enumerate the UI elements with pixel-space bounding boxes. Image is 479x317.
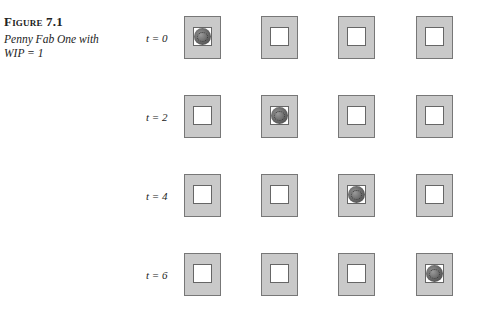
station-1-t0 <box>184 16 221 59</box>
station-slot <box>425 264 444 283</box>
station-slot <box>347 106 366 125</box>
figure-description-line1: Penny Fab One with <box>4 32 134 46</box>
penny-icon <box>426 265 443 282</box>
time-label-t0: t = 0 <box>146 31 180 45</box>
station-4-t2 <box>416 95 453 138</box>
penny-icon <box>271 107 288 124</box>
station-slot <box>425 106 444 125</box>
penny-icon <box>194 28 211 45</box>
figure-description: Penny Fab One with WIP = 1 <box>4 32 134 60</box>
station-slot <box>193 27 212 46</box>
time-label-t4: t = 4 <box>146 189 180 203</box>
station-3-t6 <box>338 253 375 296</box>
station-4-t4 <box>416 174 453 217</box>
station-2-t6 <box>261 253 298 296</box>
station-1-t2 <box>184 95 221 138</box>
station-3-t4 <box>338 174 375 217</box>
station-slot <box>193 264 212 283</box>
station-2-t2 <box>261 95 298 138</box>
station-slot <box>270 27 289 46</box>
station-slot <box>193 106 212 125</box>
station-slot <box>347 185 366 204</box>
figure-description-line2: WIP = 1 <box>4 46 134 60</box>
figure-caption: Figure 7.1 Penny Fab One with WIP = 1 <box>4 14 134 60</box>
station-slot <box>425 27 444 46</box>
station-4-t6 <box>416 253 453 296</box>
station-1-t4 <box>184 174 221 217</box>
figure-label: Figure 7.1 <box>4 14 134 30</box>
time-label-t2: t = 2 <box>146 110 180 124</box>
station-slot <box>347 264 366 283</box>
station-slot <box>270 264 289 283</box>
station-3-t0 <box>338 16 375 59</box>
station-4-t0 <box>416 16 453 59</box>
station-2-t4 <box>261 174 298 217</box>
station-slot <box>270 106 289 125</box>
penny-icon <box>348 186 365 203</box>
station-2-t0 <box>261 16 298 59</box>
station-slot <box>193 185 212 204</box>
time-label-t6: t = 6 <box>146 268 180 282</box>
station-slot <box>425 185 444 204</box>
station-slot <box>347 27 366 46</box>
station-3-t2 <box>338 95 375 138</box>
station-slot <box>270 185 289 204</box>
station-1-t6 <box>184 253 221 296</box>
